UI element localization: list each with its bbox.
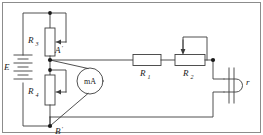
- wire-meter-upper-lead: [50, 60, 88, 69]
- wiper-arrow-head-r3: [56, 40, 61, 45]
- resistor-body-r4: [45, 75, 55, 105]
- rheostat-r3-label: R: [27, 35, 34, 45]
- battery-symbol: [14, 55, 32, 79]
- circuit-schematic-svg: E R 3 R 4 A ′ B ′ mA R 1 R 2 r: [0, 0, 263, 135]
- load-body-r: [224, 79, 243, 92]
- potentiometer-r2-label: R: [182, 68, 189, 78]
- milliammeter-label: mA: [84, 77, 96, 86]
- resistor-body-r3: [45, 28, 55, 56]
- potentiometer-r2-label-sub: 2: [191, 74, 194, 80]
- figure-border: [3, 3, 261, 133]
- wire-load-return: [50, 92, 224, 117]
- wiper-arrow-head-r4: [56, 90, 61, 95]
- circuit-diagram-canvas: E R 3 R 4 A ′ B ′ mA R 1 R 2 r: [0, 0, 263, 135]
- wire-right-down-to-load: [213, 60, 224, 79]
- resistor-body-r1: [133, 55, 161, 66]
- node-b-prime: [48, 124, 52, 128]
- rheostat-r4-label-sub: 4: [36, 92, 39, 98]
- wire-meter-lower-lead: [50, 94, 88, 127]
- load-label: r: [246, 77, 250, 87]
- terminal-a-prime-mark: ′: [62, 45, 64, 51]
- resistor-r1-label: R: [139, 68, 146, 78]
- junction-nodes: [48, 11, 215, 128]
- resistor-r1-label-sub: 1: [148, 74, 151, 80]
- terminal-b-prime-mark: ′: [62, 126, 64, 132]
- battery-label: E: [3, 62, 10, 72]
- resistor-body-r2: [175, 55, 205, 66]
- node-right-rail: [211, 58, 215, 62]
- terminal-b-prime-label: B: [55, 126, 61, 135]
- terminal-a-prime-label: A: [54, 45, 61, 55]
- rheostat-r3-label-sub: 3: [35, 41, 39, 47]
- node-r3-top: [48, 11, 52, 15]
- rheostat-r4-label: R: [27, 86, 34, 96]
- node-a-prime: [48, 58, 52, 62]
- node-r4-tap: [48, 68, 52, 72]
